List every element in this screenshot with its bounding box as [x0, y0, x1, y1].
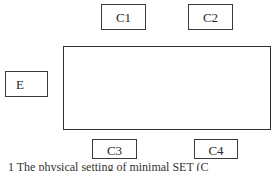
- node-c3-label: C3: [107, 144, 122, 157]
- node-c1-label: C1: [116, 11, 131, 24]
- node-c1-box: C1: [101, 4, 146, 30]
- node-c2-label: C2: [203, 11, 218, 24]
- node-c2-box: C2: [188, 4, 233, 30]
- node-e-box: E: [5, 71, 48, 97]
- central-island-region: [63, 46, 271, 130]
- node-c4-label: C4: [208, 144, 223, 157]
- figure-caption: 1 The physical setting of minimal SET (C: [0, 160, 277, 171]
- node-c4-box: C4: [194, 139, 238, 159]
- node-c3-box: C3: [92, 139, 137, 159]
- node-e-label: E: [16, 78, 24, 91]
